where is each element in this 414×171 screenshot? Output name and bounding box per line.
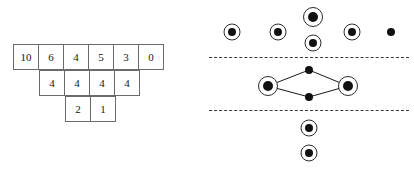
table-row: 10 6 4 5 3 0: [14, 45, 164, 70]
table-row: 2 1: [66, 97, 116, 122]
figure-root: 10 6 4 5 3 0 4 4 4 4 2 1: [0, 0, 414, 171]
node-dot-icon: [387, 28, 395, 36]
node-dot-icon: [343, 81, 353, 91]
table-cell: 4: [63, 44, 89, 70]
table-cell: 2: [65, 96, 91, 122]
section-separator-lower: [209, 110, 409, 111]
node-dot-icon: [305, 66, 313, 74]
node-dot-icon: [274, 28, 282, 36]
table-cell: 4: [114, 70, 140, 96]
table-cell: 6: [38, 44, 64, 70]
table-cell: 4: [64, 70, 90, 96]
table-cell: 4: [39, 70, 65, 96]
dot-configuration-diagram: [205, 0, 414, 171]
node-dot-icon: [228, 28, 236, 36]
node-dot-icon: [263, 81, 273, 91]
node-dot-icon: [305, 124, 313, 132]
table-row: 4 4 4 4: [40, 71, 140, 96]
table-cell: 4: [89, 70, 115, 96]
node-dot-icon: [308, 12, 318, 22]
table-cell: 10: [13, 44, 39, 70]
section-separator-upper: [209, 57, 409, 58]
table-cell: 5: [88, 44, 114, 70]
node-dot-icon: [305, 93, 313, 101]
node-dot-icon: [348, 28, 356, 36]
table-cell: 1: [90, 96, 116, 122]
table-cell: 0: [138, 44, 164, 70]
staircase-number-table: 10 6 4 5 3 0 4 4 4 4 2 1: [0, 0, 200, 171]
node-dot-icon: [305, 149, 313, 157]
table-cell: 3: [113, 44, 139, 70]
node-dot-icon: [309, 39, 317, 47]
